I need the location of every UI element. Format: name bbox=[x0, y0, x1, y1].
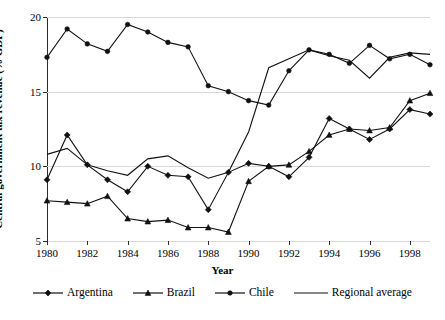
legend-swatch-none-icon bbox=[294, 287, 328, 299]
x-tick-mark-1996 bbox=[370, 241, 371, 245]
x-tick-label-1982: 1982 bbox=[76, 248, 98, 259]
x-tick-label-1996: 1996 bbox=[359, 248, 381, 259]
series-line-chile bbox=[47, 24, 430, 105]
data-point bbox=[246, 98, 251, 103]
data-point bbox=[165, 172, 171, 178]
x-tick-label-1980: 1980 bbox=[36, 248, 58, 259]
x-tick-mark-1984 bbox=[128, 241, 129, 245]
data-point bbox=[44, 177, 50, 183]
chart-legend: ArgentinaBrazilChileRegional average bbox=[0, 287, 445, 299]
legend-swatch-diamond-icon bbox=[33, 287, 63, 299]
y-tick-label-15: 15 bbox=[30, 86, 41, 97]
series-line-regional-average bbox=[47, 50, 430, 178]
data-point bbox=[64, 132, 70, 138]
x-tick-label-1994: 1994 bbox=[318, 248, 340, 259]
series-layer bbox=[47, 17, 430, 241]
data-point bbox=[186, 45, 191, 50]
x-tick-mark-1986 bbox=[168, 241, 169, 245]
data-point bbox=[65, 27, 70, 32]
x-tick-label-1986: 1986 bbox=[157, 248, 179, 259]
x-tick-mark-1988 bbox=[208, 241, 209, 245]
data-point bbox=[105, 193, 111, 198]
data-point bbox=[105, 49, 110, 54]
x-tick-mark-1994 bbox=[329, 241, 330, 245]
legend-label: Brazil bbox=[167, 287, 195, 299]
series-line-argentina bbox=[47, 110, 430, 210]
legend-item-chile[interactable]: Chile bbox=[215, 287, 274, 299]
series-regional-average bbox=[47, 50, 430, 178]
data-point bbox=[125, 22, 130, 27]
data-point bbox=[246, 160, 252, 166]
data-point bbox=[45, 55, 50, 60]
x-tick-mark-1998 bbox=[410, 241, 411, 245]
series-chile bbox=[45, 22, 433, 107]
legend-item-regional-average[interactable]: Regional average bbox=[294, 287, 412, 299]
gridline-y-5 bbox=[47, 241, 430, 242]
x-tick-label-1984: 1984 bbox=[117, 248, 139, 259]
x-tick-mark-1992 bbox=[289, 241, 290, 245]
x-tick-mark-1980 bbox=[47, 241, 48, 245]
legend-swatch-triangle-icon bbox=[133, 287, 163, 299]
data-point bbox=[367, 43, 372, 48]
data-point bbox=[287, 68, 292, 73]
data-point bbox=[205, 207, 211, 213]
x-tick-label-1992: 1992 bbox=[278, 248, 300, 259]
series-line-brazil bbox=[47, 93, 430, 232]
data-point bbox=[206, 83, 211, 88]
legend-item-brazil[interactable]: Brazil bbox=[133, 287, 195, 299]
x-tick-label-1990: 1990 bbox=[238, 248, 260, 259]
legend-label: Argentina bbox=[67, 287, 113, 299]
y-tick-label-20: 20 bbox=[30, 12, 41, 23]
data-point bbox=[427, 111, 433, 117]
data-point bbox=[226, 89, 231, 94]
data-point bbox=[145, 30, 150, 35]
data-point bbox=[367, 136, 373, 142]
x-tick-mark-1982 bbox=[87, 241, 88, 245]
y-tick-label-5: 5 bbox=[36, 236, 42, 247]
series-brazil bbox=[44, 90, 433, 234]
data-point bbox=[427, 90, 433, 95]
y-axis-title: Central government tax revenue (% GDP) bbox=[0, 29, 4, 228]
series-argentina bbox=[44, 107, 433, 213]
data-point bbox=[266, 103, 271, 108]
legend-label: Chile bbox=[249, 287, 274, 299]
x-axis-title: Year bbox=[0, 264, 445, 276]
data-point bbox=[326, 116, 332, 122]
data-point bbox=[428, 62, 433, 67]
data-point bbox=[185, 174, 191, 180]
legend-item-argentina[interactable]: Argentina bbox=[33, 287, 113, 299]
legend-swatch-circle-icon bbox=[215, 287, 245, 299]
legend-label: Regional average bbox=[332, 287, 412, 299]
x-tick-label-1988: 1988 bbox=[197, 248, 219, 259]
data-point bbox=[85, 42, 90, 47]
plot-area: 5101520 bbox=[47, 17, 430, 241]
x-tick-label-1998: 1998 bbox=[399, 248, 421, 259]
data-point bbox=[246, 178, 252, 183]
y-tick-label-10: 10 bbox=[30, 161, 41, 172]
x-tick-mark-1990 bbox=[249, 241, 250, 245]
chart-container: Central government tax revenue (% GDP) 5… bbox=[0, 0, 445, 320]
data-point bbox=[166, 40, 171, 45]
